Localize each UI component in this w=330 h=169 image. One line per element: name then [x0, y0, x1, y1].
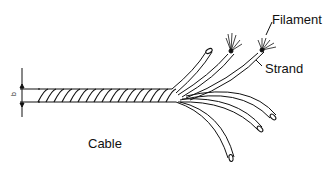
dimension-b [20, 68, 40, 117]
twisted-cable [38, 89, 176, 102]
lower-strands [176, 92, 277, 162]
filaments-1 [226, 33, 242, 51]
filament-label: Filament [272, 12, 322, 27]
strand-leader [256, 60, 262, 66]
cable-label: Cable [88, 136, 122, 151]
strand-label: Strand [265, 61, 303, 76]
cable-diagram: Filament Strand Cable b [0, 0, 330, 169]
dimension-label: b [10, 92, 17, 96]
